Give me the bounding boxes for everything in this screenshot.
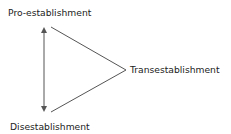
label-transestablishment: Transestablishment <box>130 65 220 74</box>
label-disestablishment: Disestablishment <box>10 122 90 131</box>
establishment-triangle-diagram: Pro-establishment Disestablishment Trans… <box>0 0 231 134</box>
upper-diagonal-line <box>51 27 126 70</box>
lower-diagonal-line <box>51 70 126 112</box>
label-pro-establishment: Pro-establishment <box>8 8 91 17</box>
